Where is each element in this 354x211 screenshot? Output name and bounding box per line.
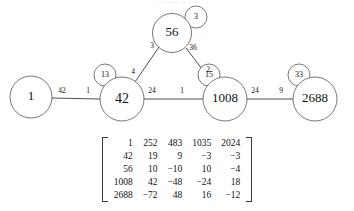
matrix-cell: 1035	[187, 137, 216, 150]
matrix-cell: −24	[187, 176, 216, 189]
graph-edge	[52, 98, 100, 99]
matrix-cell: 10	[138, 163, 163, 176]
edge-weight-label: 24	[148, 86, 156, 95]
node-badge-label: 33	[295, 70, 303, 79]
matrix-cell: 9	[163, 150, 188, 163]
matrix-row: 5610−1010−4	[109, 163, 246, 176]
node-badge-label: 3	[194, 12, 198, 21]
matrix-cell: 42	[109, 150, 138, 163]
matrix-row: 2688−724816−12	[109, 189, 246, 202]
edge-weight-label: 36	[189, 43, 197, 52]
matrix-right-bracket	[246, 137, 252, 202]
matrix-cell: −3	[187, 150, 216, 163]
matrix-cell: −4	[216, 163, 245, 176]
matrix-row: 42199−3−3	[109, 150, 246, 163]
edge-weight-label: 24	[251, 86, 259, 95]
matrix-cell: −12	[216, 189, 245, 202]
matrix-cell: 19	[138, 150, 163, 163]
matrix-cell: 252	[138, 137, 163, 150]
matrix-cell: 1	[109, 137, 138, 150]
edge-weight-label: 4	[131, 67, 135, 76]
matrix-cell: −3	[216, 150, 245, 163]
matrix-cell: −10	[163, 163, 188, 176]
matrix-cell: 42	[138, 176, 163, 189]
matrix-left-bracket	[102, 137, 108, 202]
matrix-cell: 2024	[216, 137, 245, 150]
matrix-cell: 18	[216, 176, 245, 189]
diagram-page: ·· ····· ·· ··· 133153314256100826884214…	[0, 0, 354, 211]
matrix-cell: 16	[187, 189, 216, 202]
graph-edge	[135, 47, 159, 82]
edge-weight-label: 3	[150, 41, 154, 50]
matrix-box: 12524831035202442199−3−35610−1010−410084…	[102, 137, 253, 202]
edge-weight-label: 2	[206, 65, 210, 74]
matrix-cell: 10	[187, 163, 216, 176]
matrix-row: 100842−48−2418	[109, 176, 246, 189]
graph-diagram: 1331533142561008268842143362241249	[0, 0, 354, 130]
graph-node-label: 1	[28, 88, 35, 103]
matrix-cell: 56	[109, 163, 138, 176]
matrix-figure: 12524831035202442199−3−35610−1010−410084…	[0, 128, 354, 211]
edge-weight-label: 9	[279, 86, 283, 95]
edge-weight-label: 42	[58, 86, 66, 95]
matrix-row: 125248310352024	[109, 137, 246, 150]
graph-node-label: 2688	[302, 90, 328, 105]
matrix-cell: −72	[138, 189, 163, 202]
matrix-cell: 483	[163, 137, 188, 150]
graph-node-label: 1008	[212, 90, 238, 105]
matrix-cell: 1008	[109, 176, 138, 189]
matrix-cell: −48	[163, 176, 188, 189]
edge-weight-label: 1	[86, 86, 90, 95]
edge-weight-label: 1	[180, 86, 184, 95]
node-badge-label: 13	[101, 70, 109, 79]
graph-node-label: 56	[166, 24, 180, 39]
matrix-table: 12524831035202442199−3−35610−1010−410084…	[109, 137, 246, 202]
matrix-cell: 48	[163, 189, 188, 202]
graph-node-label: 42	[115, 91, 129, 106]
matrix-cell: 2688	[109, 189, 138, 202]
